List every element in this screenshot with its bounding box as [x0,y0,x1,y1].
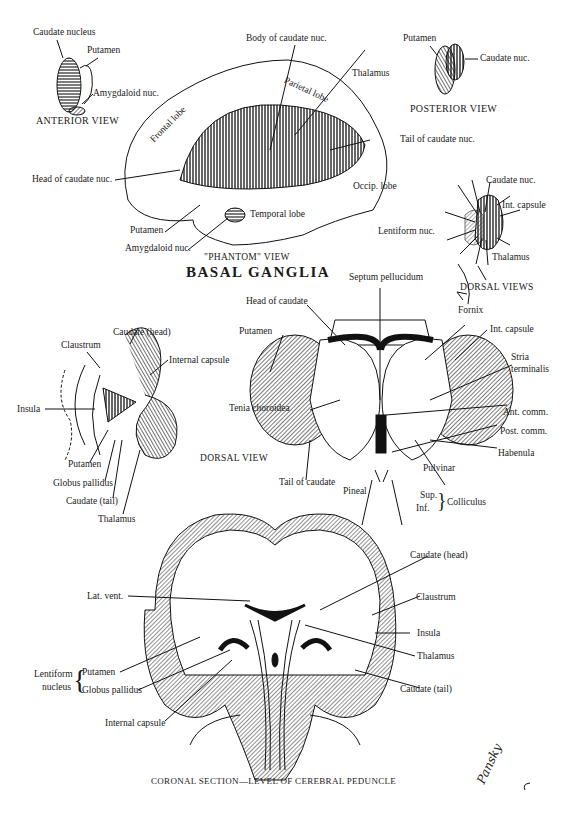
label-internal-capsule-coronal: Internal capsule [105,718,165,729]
label-sup: Sup. [420,490,437,501]
label-lentiform-1: Lentiform [34,669,73,680]
label-pulvinar: Pulvinar [423,463,455,474]
label-lat-vent: Lat. vent. [87,591,123,602]
label-putamen-left: Putamen [68,459,101,470]
label-caudate-tail-coronal: Caudate (tail) [400,684,452,695]
label-pineal: Pineal [343,486,367,497]
label-putamen-posterior: Putamen [403,33,436,44]
label-thalamus-phantom: Thalamus [352,68,389,79]
label-claustrum-coronal: Claustrum [416,592,456,603]
label-habenula: Habenula [498,448,534,459]
label-tail-of-caudate: Tail of caudate nuc. [400,134,475,145]
label-thalamus-small-dorsal: Thalamus [492,252,529,263]
label-caudate-head-left: Caudate (head) [113,327,171,338]
label-occipital-lobe: Occip. lobe [353,181,397,192]
label-caudate-nucleus: Caudate nucleus [33,27,96,38]
label-head-of-caudate-dorsal: Head of caudate [246,296,308,307]
label-internal-capsule-left: Internal capsule [169,355,229,366]
label-globus-pallidus-left: Globus pallidus [53,478,113,489]
label-lentiform-2: nucleus [42,682,71,693]
label-tail-of-caudate-dorsal: Tail of caudate [279,477,335,488]
label-amygdaloid-anterior: Amygdaloid nuc. [93,88,159,99]
label-stria-terminalis-1: Stria [511,352,529,363]
label-caudate-head-coronal: Caudate (head) [410,550,468,561]
label-temporal-lobe: Temporal lobe [250,209,305,220]
label-putamen-coronal: Putamen [82,667,115,678]
posterior-view-drawing [430,44,478,94]
label-inf: Inf. [416,503,429,514]
label-caudate-posterior: Caudate nuc. [480,53,530,64]
label-body-of-caudate: Body of caudate nuc. [246,33,327,44]
label-insula-left: Insula [17,404,40,415]
figure-title: BASAL GANGLIA [186,264,330,281]
caption-phantom-view: "PHANTOM" VIEW [204,252,290,262]
small-dorsal-view-drawing [445,180,520,280]
caption-coronal-section: CORONAL SECTION—LEVEL OF CEREBRAL PEDUNC… [151,776,396,786]
label-putamen-phantom: Putamen [130,225,163,236]
label-caudate-tail-left: Caudate (tail) [66,496,118,507]
label-ant-comm: Ant. comm. [503,407,548,418]
label-colliculus: Colliculus [447,497,486,508]
label-caudate-small-dorsal: Caudate nuc. [486,175,536,186]
label-putamen-anterior: Putamen [87,45,120,56]
label-fornix: Fornix [458,305,483,316]
label-int-capsule-dorsal: Int. capsule [490,324,534,335]
caption-dorsal-views: DORSAL VIEWS [460,282,534,292]
label-claustrum-left: Claustrum [61,340,101,351]
label-insula-coronal: Insula [417,628,440,639]
label-lentiform-small-dorsal: Lentiform nuc. [378,226,435,237]
label-amygdaloid-phantom: Amygdaloid nuc. [125,243,191,254]
label-head-of-caudate: Head of caudate nuc. [32,174,112,185]
colliculus-brace: } [437,489,447,511]
caption-posterior-view: POSTERIOR VIEW [410,103,497,114]
label-thalamus-coronal: Thalamus [417,651,454,662]
label-int-capsule-small-dorsal: Int. capsule [502,200,546,211]
label-stria-terminalis-2: terminalis [511,364,549,375]
label-thalamus-left: Thalamus [98,514,135,525]
coronal-section-drawing [120,514,428,780]
label-post-comm: Post. comm. [500,426,547,437]
caption-dorsal-view-left: DORSAL VIEW [200,453,268,463]
signature-flourish [524,783,530,790]
label-septum-pellucidum: Septum pellucidum [349,272,423,283]
label-globus-pallidus-coronal: Globus pallidus [82,685,142,696]
caption-anterior-view: ANTERIOR VIEW [36,115,119,126]
label-tenia-choroidea: Tenia choroidea [229,403,290,414]
label-putamen-dorsal: Putamen [239,326,272,337]
